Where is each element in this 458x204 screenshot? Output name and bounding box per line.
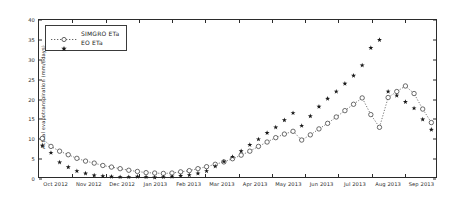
data-point [274, 135, 278, 139]
data-point [126, 174, 131, 179]
series-eo-eta [40, 37, 434, 179]
data-point [153, 171, 157, 175]
x-tick-label-0: Oct 2012 [43, 181, 68, 187]
legend-label-eo: EO ETa [81, 39, 103, 46]
data-point [377, 37, 382, 42]
data-point [291, 110, 296, 115]
data-point [239, 153, 243, 157]
data-point [74, 168, 79, 173]
data-point [66, 153, 70, 157]
data-point [49, 150, 54, 155]
data-point [325, 96, 330, 101]
data-point [75, 156, 79, 160]
x-tick-label-11: Sep 2013 [409, 181, 434, 187]
data-point [144, 170, 148, 174]
data-point [101, 163, 105, 167]
data-point [308, 133, 312, 137]
data-point [109, 174, 114, 179]
data-point [369, 112, 373, 116]
series-simgro-eta [40, 84, 433, 176]
data-point [256, 137, 261, 142]
data-point [325, 121, 329, 125]
legend-item-eo: EO ETa [50, 38, 119, 47]
data-point [118, 174, 123, 179]
data-point [403, 99, 408, 104]
data-point [135, 169, 139, 173]
series-line [42, 86, 431, 173]
x-tick-label-1: Nov 2012 [76, 181, 102, 187]
x-tick-label-9: Jul 2013 [344, 181, 366, 187]
data-point [421, 107, 425, 111]
y-tick-label-10: 10 [5, 136, 39, 142]
data-point [57, 149, 61, 153]
data-point [360, 63, 365, 68]
y-tick-label-35: 35 [5, 37, 39, 43]
data-point [360, 96, 364, 100]
data-point [127, 168, 131, 172]
x-tick-label-7: May 2013 [275, 181, 301, 187]
data-point [118, 166, 122, 170]
y-tick-label-40: 40 [5, 17, 39, 23]
data-point [109, 165, 113, 169]
data-point [265, 130, 270, 135]
y-tick-label-30: 30 [5, 57, 39, 63]
data-point [187, 172, 192, 177]
legend-item-simgro: SIMGRO ETa [50, 29, 119, 38]
data-point [40, 143, 45, 148]
eo-marker-icon [50, 38, 78, 47]
data-point [299, 123, 304, 128]
data-point [265, 140, 269, 144]
data-point [403, 84, 407, 88]
data-point [282, 118, 287, 123]
data-point [394, 93, 399, 98]
y-tick-label-25: 25 [5, 77, 39, 83]
data-point [317, 127, 321, 131]
y-tick-label-5: 5 [5, 156, 39, 162]
data-point [57, 160, 62, 165]
y-tick-label-20: 20 [5, 97, 39, 103]
data-point [66, 164, 71, 169]
data-point [412, 106, 417, 111]
x-tick-label-4: Feb 2013 [176, 181, 201, 187]
x-tick-label-10: Aug 2013 [375, 181, 401, 187]
x-tick-label-6: Apr 2013 [243, 181, 268, 187]
data-point [256, 144, 260, 148]
x-tick-label-3: Jan 2013 [144, 181, 168, 187]
x-tick-label-8: Jun 2013 [310, 181, 334, 187]
data-point [308, 114, 313, 119]
data-point [92, 173, 97, 178]
data-point [386, 95, 390, 99]
y-tick-label-15: 15 [5, 116, 39, 122]
data-point [196, 166, 200, 170]
data-point [49, 144, 53, 148]
data-point [247, 142, 252, 147]
data-point [299, 138, 303, 142]
data-point [152, 175, 157, 180]
data-point [351, 102, 355, 106]
data-point [429, 127, 434, 132]
data-point [420, 117, 425, 122]
data-point [178, 173, 183, 178]
data-point [334, 115, 338, 119]
data-point [204, 164, 208, 168]
chart-figure: Actual evapotranspiration (mm/8days) 051… [0, 0, 458, 204]
data-point [83, 171, 88, 176]
data-point [144, 174, 149, 179]
data-point [316, 104, 321, 109]
data-point [187, 168, 191, 172]
data-point [291, 129, 295, 133]
data-point [100, 174, 105, 179]
data-point [83, 159, 87, 163]
data-point [342, 81, 347, 86]
data-point [92, 161, 96, 165]
simgro-marker-icon [50, 29, 78, 38]
data-point [135, 174, 140, 179]
x-tick-label-2: Dec 2012 [109, 181, 135, 187]
data-point [40, 136, 44, 140]
data-point [334, 89, 339, 94]
data-point [248, 149, 252, 153]
data-point [429, 120, 433, 124]
data-point [273, 125, 278, 130]
legend-label-simgro: SIMGRO ETa [81, 30, 119, 37]
data-point [343, 108, 347, 112]
